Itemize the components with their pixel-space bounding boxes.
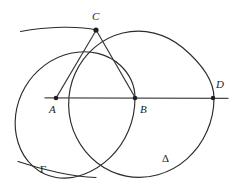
label-point-b: B xyxy=(140,103,147,115)
label-point-d: D xyxy=(215,78,224,90)
chord-CA xyxy=(56,31,96,98)
vertex-dot-a xyxy=(54,96,59,101)
chord-CB xyxy=(96,31,135,98)
diagram-canvas: A B C D Γ Δ xyxy=(0,0,239,194)
vertex-dot-d xyxy=(211,96,215,100)
circle-centered-a xyxy=(15,52,135,178)
lower-left-arc-gamma xyxy=(18,162,96,178)
vertex-dot-b xyxy=(133,96,138,101)
label-arc-delta: Δ xyxy=(162,152,169,164)
upper-left-arc xyxy=(21,27,97,31)
label-point-a: A xyxy=(48,103,56,115)
vertex-dot-c xyxy=(93,27,98,32)
geometry-diagram: A B C D Γ Δ xyxy=(0,0,239,194)
label-point-c: C xyxy=(92,10,100,22)
label-arc-gamma: Γ xyxy=(40,163,46,175)
